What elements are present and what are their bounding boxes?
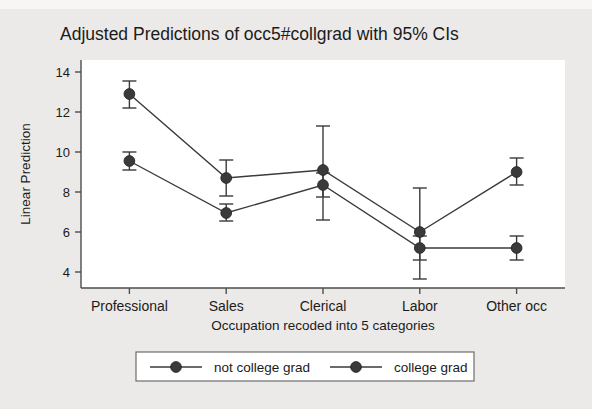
y-tick-label: 6	[63, 225, 70, 240]
y-tick-label: 4	[63, 265, 70, 280]
y-tick-label: 8	[63, 185, 70, 200]
legend-key-marker	[171, 362, 182, 373]
stata-margins-plot-figure: Adjusted Predictions of occ5#collgrad wi…	[0, 0, 592, 409]
data-point	[221, 208, 232, 219]
x-category-label-2: Clerical	[300, 298, 347, 314]
x-category-label-1: Sales	[209, 298, 244, 314]
x-category-label-0: Professional	[91, 298, 168, 314]
y-tick-label: 10	[56, 145, 70, 160]
figure-top-margin	[0, 0, 592, 9]
legend-key-marker	[351, 362, 362, 373]
data-point	[511, 167, 522, 178]
y-axis-title: Linear Prediction	[18, 123, 33, 224]
legend-label-1: college grad	[394, 360, 468, 375]
chart-title: Adjusted Predictions of occ5#collgrad wi…	[60, 24, 459, 44]
data-point	[414, 227, 425, 238]
y-tick-label: 14	[56, 65, 70, 80]
x-category-label-3: Labor	[402, 298, 438, 314]
data-point	[318, 165, 329, 176]
data-point	[511, 243, 522, 254]
legend-label-0: not college grad	[214, 360, 310, 375]
data-point	[221, 173, 232, 184]
data-point	[124, 156, 135, 167]
chart-canvas: Adjusted Predictions of occ5#collgrad wi…	[0, 0, 592, 409]
y-tick-label: 12	[56, 105, 70, 120]
x-category-label-4: Other occ	[486, 298, 547, 314]
data-point	[124, 89, 135, 100]
chart-legend: not college gradcollege grad	[136, 352, 474, 381]
x-axis-title: Occupation recoded into 5 categories	[211, 318, 435, 333]
